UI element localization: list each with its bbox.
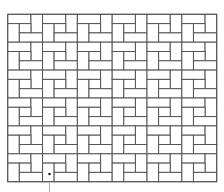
tile-piece-bottom-bar — [54, 145, 77, 154]
tile-piece-left-post — [43, 163, 55, 182]
tile-piece-left-post — [77, 135, 89, 154]
tile-piece-right-post — [66, 126, 78, 145]
tile-piece-bottom-bar — [159, 117, 182, 126]
tile-piece-left-post — [112, 52, 124, 71]
tile-piece-bottom-bar — [89, 61, 112, 70]
tile-piece-right-post — [101, 154, 113, 173]
tile-piece-top-bar — [147, 126, 170, 135]
tile-piece-right-post — [135, 14, 147, 33]
tile-piece-left-post — [43, 52, 55, 71]
tile-piece-top-bar — [112, 126, 135, 135]
tile-piece-right-post — [170, 42, 182, 61]
tile-piece-center-square — [19, 135, 31, 144]
tile-piece-bottom-bar — [54, 61, 77, 70]
tile-piece-center-square — [19, 107, 31, 116]
tile-piece-left-post — [43, 24, 55, 43]
tile-piece-center-square — [89, 163, 101, 172]
tile-piece-right-post — [170, 70, 182, 89]
tile-piece-right-post — [205, 14, 217, 33]
tile-piece-center-square — [159, 107, 171, 116]
tile-piece-right-post — [31, 98, 43, 117]
tile-piece-center-square — [54, 24, 66, 33]
tile-piece-right-post — [170, 154, 182, 173]
tile-piece-top-bar — [147, 70, 170, 79]
tile-piece-top-bar — [77, 154, 100, 163]
tile-piece-bottom-bar — [124, 117, 147, 126]
tile-piece-right-post — [101, 14, 113, 33]
tile-piece-right-post — [205, 42, 217, 61]
tile-piece-top-bar — [8, 14, 31, 23]
tile-piece-left-post — [182, 24, 194, 43]
tile-piece-center-square — [54, 163, 66, 172]
tile-piece-top-bar — [8, 70, 31, 79]
tile-piece-left-post — [8, 135, 20, 154]
tile-piece-left-post — [43, 107, 55, 126]
tile-piece-left-post — [182, 163, 194, 182]
tile-piece-left-post — [77, 79, 89, 98]
tile-piece-left-post — [112, 107, 124, 126]
tile-piece-left-post — [8, 79, 20, 98]
tile-piece-center-square — [19, 52, 31, 61]
tile-piece-center-square — [89, 79, 101, 88]
tile-piece-left-post — [8, 163, 20, 182]
tile-piece-left-post — [182, 79, 194, 98]
tile-piece-bottom-bar — [124, 33, 147, 42]
tile-piece-bottom-bar — [54, 33, 77, 42]
tile-piece-bottom-bar — [159, 61, 182, 70]
tile-piece-right-post — [66, 98, 78, 117]
tile-piece-right-post — [66, 154, 78, 173]
tile-piece-bottom-bar — [89, 145, 112, 154]
tile-piece-top-bar — [182, 42, 205, 51]
tile-piece-center-square — [193, 135, 205, 144]
tile-piece-bottom-bar — [19, 172, 42, 181]
tile-piece-center-square — [159, 135, 171, 144]
tile-piece-right-post — [135, 98, 147, 117]
tile-piece-top-bar — [8, 98, 31, 107]
tile-piece-right-post — [31, 126, 43, 145]
tile-piece-top-bar — [112, 14, 135, 23]
tile-piece-top-bar — [182, 126, 205, 135]
tile-piece-top-bar — [147, 14, 170, 23]
tile-piece-left-post — [147, 163, 159, 182]
tile-piece-bottom-bar — [193, 89, 216, 98]
tile-piece-center-square — [124, 24, 136, 33]
tile-piece-top-bar — [8, 154, 31, 163]
tile-piece-bottom-bar — [159, 145, 182, 154]
tile-piece-top-bar — [182, 14, 205, 23]
tile-piece-left-post — [8, 24, 20, 43]
tile-piece-center-square — [54, 52, 66, 61]
tile-piece-bottom-bar — [89, 172, 112, 181]
tile-piece-center-square — [124, 107, 136, 116]
tile-piece-right-post — [31, 42, 43, 61]
tile-piece-left-post — [112, 24, 124, 43]
tile-piece-left-post — [147, 135, 159, 154]
tile-piece-center-square — [124, 52, 136, 61]
tile-grid — [8, 14, 217, 181]
tile-piece-top-bar — [112, 70, 135, 79]
tile-piece-left-post — [112, 79, 124, 98]
tile-piece-top-bar — [77, 70, 100, 79]
tile-piece-top-bar — [43, 154, 66, 163]
tile-piece-right-post — [101, 70, 113, 89]
tile-piece-center-square — [159, 24, 171, 33]
tile-piece-bottom-bar — [124, 145, 147, 154]
tile-piece-top-bar — [43, 126, 66, 135]
tile-piece-bottom-bar — [54, 117, 77, 126]
tile-piece-bottom-bar — [54, 172, 77, 181]
tile-piece-top-bar — [77, 14, 100, 23]
tile-piece-left-post — [77, 52, 89, 71]
tile-piece-left-post — [8, 52, 20, 71]
tile-piece-center-square — [193, 52, 205, 61]
tile-piece-left-post — [43, 79, 55, 98]
tile-piece-right-post — [135, 42, 147, 61]
pinwheel-tiling-diagram — [0, 0, 224, 192]
tile-piece-center-square — [54, 135, 66, 144]
tile-piece-bottom-bar — [54, 89, 77, 98]
tile-piece-center-square — [89, 107, 101, 116]
tile-piece-left-post — [147, 52, 159, 71]
tile-piece-right-post — [66, 14, 78, 33]
tile-piece-right-post — [135, 154, 147, 173]
tile-piece-bottom-bar — [89, 33, 112, 42]
tile-piece-center-square — [89, 135, 101, 144]
tile-piece-top-bar — [147, 42, 170, 51]
